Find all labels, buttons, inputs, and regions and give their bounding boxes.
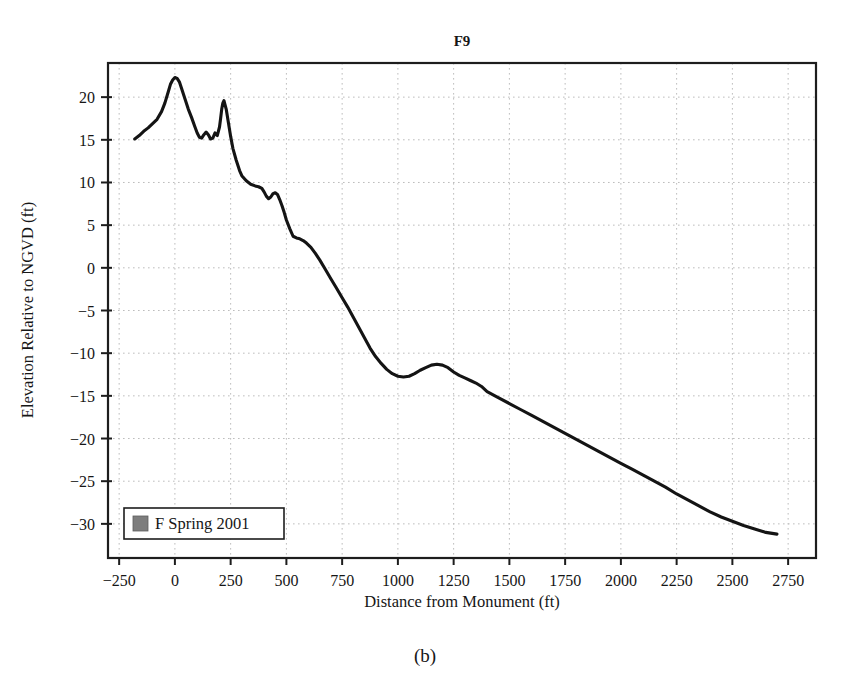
x-tick-label: 2000 [605, 572, 637, 589]
x-tick-label: 1500 [493, 572, 525, 589]
x-tick-label: −250 [103, 572, 136, 589]
y-tick-label: 0 [87, 260, 95, 277]
x-tick-label: 2500 [716, 572, 748, 589]
y-tick-label: −15 [70, 388, 95, 405]
x-tick-label: 1250 [438, 572, 470, 589]
x-tick-label: 1750 [549, 572, 581, 589]
elevation-profile-chart: F9 −250025050075010001250150017502000225… [0, 0, 850, 689]
y-tick-label: 20 [79, 89, 95, 106]
x-axis-title: Distance from Monument (ft) [364, 592, 560, 611]
x-tick-label: 750 [330, 572, 354, 589]
y-tick-label: 10 [79, 174, 95, 191]
x-tick-label: 500 [274, 572, 298, 589]
x-tick-label: 1000 [382, 572, 414, 589]
legend-entry-label: F Spring 2001 [155, 514, 249, 533]
x-tick-label: 2250 [661, 572, 693, 589]
y-tick-label: 5 [87, 217, 95, 234]
y-tick-label: −25 [70, 473, 95, 490]
chart-title: F9 [454, 33, 471, 49]
y-tick-label: −10 [70, 345, 95, 362]
x-tick-label: 2750 [772, 572, 804, 589]
x-tick-label: 250 [219, 572, 243, 589]
y-axis-title: Elevation Relative to NGVD (ft) [18, 202, 37, 418]
y-tick-label: −30 [70, 516, 95, 533]
x-tick-label: 0 [171, 572, 179, 589]
figure-container: F9 −250025050075010001250150017502000225… [0, 0, 850, 689]
y-tick-label: 15 [79, 132, 95, 149]
chart-legend[interactable]: F Spring 2001 [124, 508, 284, 539]
legend-swatch-icon [133, 516, 148, 531]
figure-caption: (b) [414, 645, 436, 667]
y-tick-label: −5 [78, 303, 95, 320]
y-tick-label: −20 [70, 431, 95, 448]
